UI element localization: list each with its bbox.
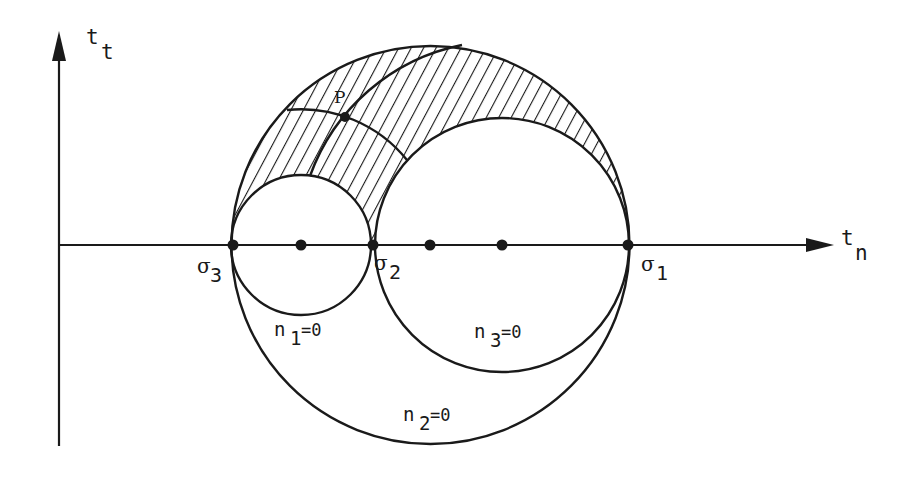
label-sigma3: σ 3 [197,254,222,287]
svg-text:1: 1 [290,327,301,349]
label-n1: n 1 =0 [274,318,321,349]
point-sigma3 [228,240,239,251]
point-sigma1 [623,240,634,251]
svg-text:3: 3 [210,263,222,287]
svg-text:2: 2 [419,412,430,434]
svg-text:3: 3 [490,329,501,351]
svg-text:=0: =0 [301,320,321,340]
svg-text:t: t [101,40,114,64]
tt-axis-label: t t [86,25,114,64]
point-p-label: P [334,87,345,107]
point-p-marker [340,112,350,122]
svg-text:σ: σ [641,252,655,276]
point-center-n3 [497,240,508,251]
label-n3: n 3 =0 [474,320,521,351]
svg-text:=0: =0 [501,322,521,342]
svg-text:n: n [474,320,485,342]
label-sigma1: σ 1 [641,252,668,285]
point-sigma2 [368,240,379,251]
label-n2: n 2 =0 [403,403,450,434]
svg-text:=0: =0 [430,405,450,425]
svg-text:σ: σ [374,251,388,275]
point-center-n2 [425,240,436,251]
label-sigma2: σ 2 [374,251,401,284]
tn-axis-label: t n [841,226,868,265]
tn-arrow-icon [806,238,834,252]
svg-text:σ: σ [197,254,211,278]
tt-arrow-icon [52,31,66,61]
svg-text:n: n [274,318,285,340]
svg-text:n: n [403,403,414,425]
svg-text:1: 1 [656,261,668,285]
svg-text:t: t [841,226,854,250]
mohr-circle-diagram: P t t t n σ 3 σ 2 σ 1 n 1 =0 n 3 =0 [0,0,910,479]
point-center-n1 [296,240,307,251]
svg-text:n: n [855,241,868,265]
svg-text:2: 2 [389,260,401,284]
svg-text:t: t [86,25,99,49]
